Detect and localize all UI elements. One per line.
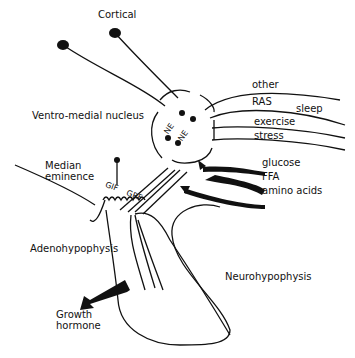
- label-vmn: Ventro-medial nucleus: [32, 111, 144, 121]
- cortical-axon-1: [63, 45, 165, 106]
- cortical-axon-2: [115, 33, 178, 98]
- label-adenohypophysis: Adenohypophysis: [30, 244, 118, 254]
- metabolic-amino-acids: amino acids: [262, 186, 322, 196]
- metabolic-glucose: glucose: [262, 158, 300, 168]
- label-median-2: eminence: [45, 172, 94, 182]
- input-stress: stress: [254, 131, 284, 141]
- input-sleep: sleep: [296, 104, 323, 114]
- label-neurohypophysis: Neurohypophysis: [225, 272, 312, 282]
- metabolic-ffa: FFA: [262, 172, 279, 182]
- input-exercise: exercise: [254, 117, 295, 127]
- label-cortical: Cortical: [98, 10, 136, 20]
- label-gh-2: hormone: [56, 321, 101, 331]
- input-other: other: [252, 80, 279, 90]
- input-ras: RAS: [252, 97, 272, 107]
- label-gh-1: Growth: [56, 310, 92, 320]
- label-median-1: Median: [45, 161, 81, 171]
